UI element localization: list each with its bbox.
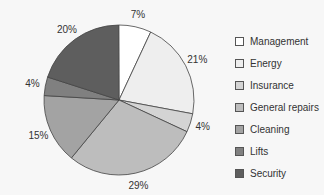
legend-swatch	[235, 147, 244, 156]
legend-swatch	[235, 37, 244, 46]
legend-item-insurance: Insurance	[235, 74, 324, 96]
pie-label-management: 7%	[131, 9, 146, 20]
legend-swatch	[235, 169, 244, 178]
pie-label-lifts: 4%	[25, 78, 40, 89]
legend-swatch	[235, 103, 244, 112]
pie-label-insurance: 4%	[196, 121, 211, 132]
legend-label: Management	[250, 36, 308, 47]
legend: Management Energy Insurance General repa…	[235, 30, 324, 184]
legend-label: Lifts	[250, 146, 268, 157]
legend-item-security: Security	[235, 162, 324, 184]
legend-item-management: Management	[235, 30, 324, 52]
pie-label-security: 20%	[57, 24, 77, 35]
pie-label-cleaning: 15%	[28, 130, 48, 141]
legend-swatch	[235, 59, 244, 68]
legend-item-energy: Energy	[235, 52, 324, 74]
pie-chart: 7%21%4%29%15%4%20%	[0, 0, 230, 195]
pie-label-energy: 21%	[187, 54, 207, 65]
legend-label: General repairs	[250, 102, 319, 113]
legend-item-cleaning: Cleaning	[235, 118, 324, 140]
legend-item-lifts: Lifts	[235, 140, 324, 162]
legend-swatch	[235, 81, 244, 90]
legend-label: Cleaning	[250, 124, 289, 135]
legend-swatch	[235, 125, 244, 134]
legend-item-general-repairs: General repairs	[235, 96, 324, 118]
legend-label: Energy	[250, 58, 282, 69]
legend-label: Insurance	[250, 80, 294, 91]
pie-slices	[44, 25, 194, 175]
legend-label: Security	[250, 168, 286, 179]
pie-label-general-repairs: 29%	[128, 180, 148, 191]
